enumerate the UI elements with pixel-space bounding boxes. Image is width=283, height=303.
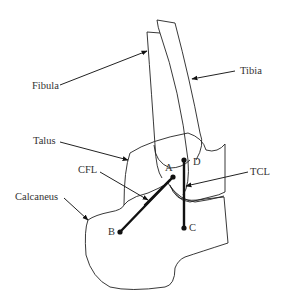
tibia-label: Tibia	[240, 66, 262, 77]
cfl-label: CFL	[78, 165, 97, 176]
point-a-label: A	[165, 163, 173, 174]
calcaneus-arrow	[64, 198, 88, 220]
point-b-marker	[117, 229, 122, 234]
diagram-drawing	[0, 0, 283, 303]
fibula-label: Fibula	[32, 81, 59, 92]
ankle-ligament-diagram: Fibula Tibia Talus CFL TCL Calcaneus A B…	[0, 0, 283, 303]
tcl-label: TCL	[250, 167, 270, 178]
point-c-label: C	[189, 223, 196, 234]
calcaneus-label: Calcaneus	[15, 192, 58, 203]
tibia-arrow	[192, 71, 235, 79]
subtalar-joint-line	[170, 186, 224, 202]
point-a-marker	[170, 174, 175, 179]
point-c-marker	[181, 225, 186, 230]
talus-shape	[124, 133, 225, 205]
talus-arrow	[60, 142, 128, 160]
calcaneus-shape	[85, 183, 228, 290]
talus-label: Talus	[33, 136, 56, 147]
point-d-label: D	[193, 157, 201, 168]
fibula-arrow	[60, 51, 147, 85]
tcl-arrow	[186, 172, 248, 186]
tibia-inner-edge	[157, 20, 160, 33]
point-b-label: B	[108, 227, 115, 238]
point-d-marker	[181, 157, 186, 162]
